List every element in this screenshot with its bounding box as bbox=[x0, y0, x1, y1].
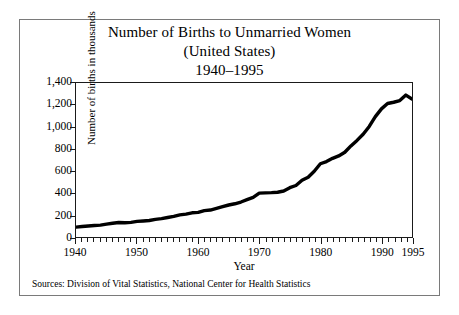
x-tick-minor bbox=[302, 238, 303, 242]
x-tick-label: 1980 bbox=[298, 246, 344, 259]
x-tick-minor bbox=[364, 238, 365, 242]
x-tick-minor bbox=[296, 238, 297, 242]
births-line-series bbox=[76, 83, 412, 237]
x-tick-label: 1995 bbox=[390, 246, 436, 259]
source-note: Sources: Division of Vital Statistics, N… bbox=[32, 279, 310, 290]
x-tick-minor bbox=[339, 238, 340, 242]
x-tick-minor bbox=[173, 238, 174, 242]
y-axis-tick-labels: 02004006008001,0001,2001,400 bbox=[28, 82, 72, 238]
x-tick-minor bbox=[192, 238, 193, 242]
x-tick-minor bbox=[87, 238, 88, 242]
y-tick-label: 1,400 bbox=[32, 76, 72, 88]
x-axis-tick-labels: 1940195019601970198019901995 bbox=[75, 246, 413, 260]
x-tick-minor bbox=[352, 238, 353, 242]
x-tick-minor bbox=[327, 238, 328, 242]
x-tick-minor bbox=[155, 238, 156, 242]
x-tick-minor bbox=[401, 238, 402, 242]
x-tick-label: 1950 bbox=[113, 246, 159, 259]
x-tick-minor bbox=[376, 238, 377, 242]
x-tick-label: 1970 bbox=[236, 246, 282, 259]
x-tick-minor bbox=[388, 238, 389, 242]
x-tick-minor bbox=[210, 238, 211, 242]
x-tick-minor bbox=[118, 238, 119, 242]
x-tick-minor bbox=[100, 238, 101, 242]
figure-container: Number of Births to Unmarried Women (Uni… bbox=[19, 19, 440, 296]
x-tick-minor bbox=[167, 238, 168, 242]
x-tick-minor bbox=[272, 238, 273, 242]
x-tick-minor bbox=[333, 238, 334, 242]
x-tick-minor bbox=[186, 238, 187, 242]
x-axis-tick-marks bbox=[75, 238, 413, 244]
x-axis-title: Year bbox=[75, 260, 413, 272]
births-polyline bbox=[76, 95, 412, 227]
y-tick-label: 600 bbox=[32, 165, 72, 177]
x-tick-minor bbox=[81, 238, 82, 242]
x-tick-major bbox=[321, 238, 322, 244]
y-tick-label: 800 bbox=[32, 143, 72, 155]
x-tick-minor bbox=[284, 238, 285, 242]
x-tick-minor bbox=[106, 238, 107, 242]
x-tick-minor bbox=[247, 238, 248, 242]
y-tick-label: 400 bbox=[32, 187, 72, 199]
x-tick-major bbox=[382, 238, 383, 244]
x-tick-label: 1960 bbox=[175, 246, 221, 259]
x-tick-minor bbox=[179, 238, 180, 242]
x-tick-minor bbox=[266, 238, 267, 242]
x-tick-minor bbox=[370, 238, 371, 242]
chart-title-line-2: (United States) bbox=[20, 42, 439, 61]
x-tick-major bbox=[136, 238, 137, 244]
x-tick-minor bbox=[161, 238, 162, 242]
x-tick-minor bbox=[315, 238, 316, 242]
x-tick-minor bbox=[222, 238, 223, 242]
y-tick-label: 1,200 bbox=[32, 98, 72, 110]
x-tick-minor bbox=[345, 238, 346, 242]
y-tick-label: 1,000 bbox=[32, 121, 72, 133]
x-tick-minor bbox=[395, 238, 396, 242]
x-tick-minor bbox=[216, 238, 217, 242]
x-tick-major bbox=[75, 238, 76, 244]
plot-area bbox=[75, 82, 413, 238]
x-tick-minor bbox=[130, 238, 131, 242]
x-tick-minor bbox=[149, 238, 150, 242]
x-tick-minor bbox=[112, 238, 113, 242]
chart-title-line-3: 1940–1995 bbox=[20, 61, 439, 80]
x-tick-minor bbox=[358, 238, 359, 242]
x-tick-minor bbox=[290, 238, 291, 242]
x-tick-minor bbox=[241, 238, 242, 242]
x-tick-major bbox=[413, 238, 414, 244]
x-tick-label: 1940 bbox=[52, 246, 98, 259]
x-tick-minor bbox=[124, 238, 125, 242]
x-tick-minor bbox=[278, 238, 279, 242]
x-tick-minor bbox=[235, 238, 236, 242]
x-tick-minor bbox=[93, 238, 94, 242]
x-tick-minor bbox=[309, 238, 310, 242]
x-tick-minor bbox=[229, 238, 230, 242]
chart-title-line-1: Number of Births to Unmarried Women bbox=[20, 23, 439, 42]
x-tick-minor bbox=[143, 238, 144, 242]
x-tick-minor bbox=[253, 238, 254, 242]
chart-title-block: Number of Births to Unmarried Women (Uni… bbox=[20, 23, 439, 80]
y-tick-label: 200 bbox=[32, 210, 72, 222]
y-tick-label: 0 bbox=[32, 232, 72, 244]
x-tick-minor bbox=[407, 238, 408, 242]
plot-inner bbox=[76, 83, 412, 237]
x-tick-minor bbox=[204, 238, 205, 242]
x-tick-major bbox=[259, 238, 260, 244]
x-tick-major bbox=[198, 238, 199, 244]
